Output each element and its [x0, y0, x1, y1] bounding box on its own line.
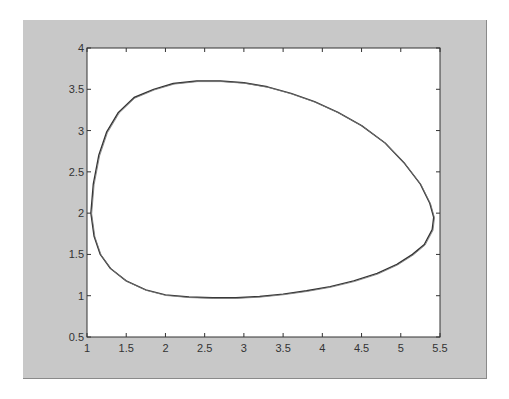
x-tick-label: 2: [162, 342, 168, 354]
x-tick-label: 3.5: [275, 342, 290, 354]
y-tick-label: 3.5: [69, 83, 84, 95]
y-tick-label: 2: [78, 207, 84, 219]
x-tick-label: 1: [84, 342, 90, 354]
y-tick-label: 3: [78, 125, 84, 137]
x-tick-label: 3: [241, 342, 247, 354]
x-tick-label: 4.5: [354, 342, 369, 354]
y-tick-label: 1.5: [69, 248, 84, 260]
y-tick-label: 2.5: [69, 166, 84, 178]
x-tick-label: 5.5: [432, 342, 447, 354]
y-tick-label: 4: [78, 42, 84, 54]
y-tick-label: 1: [78, 290, 84, 302]
x-tick-label: 2.5: [197, 342, 212, 354]
chart-canvas: 11.522.533.544.555.5 0.511.522.533.54: [0, 0, 509, 399]
x-tick-label: 5: [398, 342, 404, 354]
axes-box: [87, 48, 440, 337]
y-tick-label: 0.5: [69, 331, 84, 343]
x-tick-label: 1.5: [119, 342, 134, 354]
x-tick-label: 4: [319, 342, 325, 354]
